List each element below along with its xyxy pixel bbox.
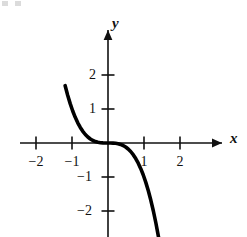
x-tick-label-pos1: 1 (132, 155, 156, 169)
cartesian-plot (0, 0, 247, 237)
y-tick-label-neg1: −1 (66, 170, 92, 184)
x-axis-label: x (230, 131, 238, 146)
x-axis-arrowhead (212, 139, 222, 148)
y-tick-label-pos2: 2 (70, 68, 96, 82)
y-tick-label-neg2: −2 (66, 204, 92, 218)
y-tick-label-pos1: 1 (70, 102, 96, 116)
y-axis-label: y (112, 16, 119, 31)
x-tick-label-neg2: −2 (24, 155, 48, 169)
x-tick-label-pos2: 2 (168, 155, 192, 169)
x-tick-label-neg1: −1 (60, 155, 84, 169)
y-axis-arrowhead (104, 30, 113, 40)
graph-figure: y x −2 −1 1 2 2 1 −1 −2 (0, 0, 247, 237)
